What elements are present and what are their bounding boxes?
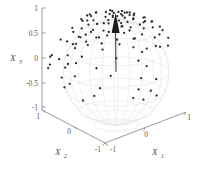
mean-direction-arrow: [112, 13, 120, 72]
scatter-point: [110, 75, 112, 77]
scatter-point: [121, 10, 123, 12]
scatter-point: [134, 37, 136, 39]
scatter-point: [132, 46, 134, 48]
scatter-point: [142, 21, 144, 23]
scatter-point: [161, 29, 163, 31]
axis-title-x3-sub: 3: [18, 59, 22, 65]
scatter-point: [137, 60, 139, 62]
scatter-point: [121, 14, 123, 16]
axis-title-x1-sub: 1: [161, 153, 164, 159]
scatter-point: [71, 27, 73, 29]
scatter-point: [95, 67, 97, 69]
axis-title-x1: X 1: [151, 147, 164, 159]
scatter-point: [121, 25, 123, 27]
scatter-point: [75, 62, 77, 64]
scatter-point: [167, 44, 169, 46]
scatter-point: [143, 27, 145, 29]
scatter-point: [69, 83, 71, 85]
tick-label-x3: 0: [34, 54, 38, 63]
scatter-point: [150, 90, 152, 92]
scatter-point: [106, 34, 108, 36]
scatter-point: [86, 14, 88, 16]
scatter-point: [61, 76, 63, 78]
axis-title-x2: X 2: [54, 147, 67, 159]
scatter-point: [150, 21, 152, 23]
scatter-point: [118, 19, 120, 21]
scatter-point: [81, 27, 83, 29]
axis-title-x3: X 3: [9, 53, 22, 65]
scatter-point: [58, 58, 60, 60]
scatter-point: [86, 19, 88, 21]
scatter-point: [67, 54, 69, 56]
scatter-point: [103, 22, 105, 24]
scatter-point: [75, 43, 77, 45]
scatter-point: [155, 78, 157, 80]
scatter-point: [128, 29, 130, 31]
scatter-point: [90, 31, 92, 33]
scatter-point: [87, 24, 89, 26]
scatter-point: [132, 97, 134, 99]
tick-label-x2: 1: [36, 112, 40, 121]
scatter-point: [133, 12, 135, 14]
scatter-point: [92, 19, 94, 21]
scatter-point: [113, 12, 115, 14]
scatter-point: [124, 11, 126, 13]
tick-label-x1: 1: [187, 113, 191, 122]
scatter-point: [74, 47, 76, 49]
scatter-point: [155, 94, 157, 96]
scatter-point: [117, 11, 119, 13]
scatter-point: [64, 66, 66, 68]
scatter-point: [154, 36, 156, 38]
axis-title-x2-name: X: [54, 147, 61, 157]
scatter-point: [105, 11, 107, 13]
scatter-point: [132, 18, 134, 20]
sphere-latitude: [86, 110, 146, 126]
scatter-point: [107, 22, 109, 24]
scatter-point: [152, 26, 154, 28]
scatter-point: [145, 65, 147, 67]
tick-x1: [103, 143, 106, 146]
axis-title-x1-name: X: [151, 147, 158, 157]
scatter-point: [47, 67, 49, 69]
tick-label-x1: 0: [144, 130, 148, 139]
scatter-points-group: [47, 9, 169, 102]
tick-label-x2: 0: [67, 127, 71, 136]
tick-label-x3: -1: [32, 103, 38, 112]
scatter-point: [146, 47, 148, 49]
tick-x2: [105, 143, 108, 146]
tick-label-x2: -1: [95, 145, 101, 154]
scatter-point: [81, 56, 83, 58]
scatter-point: [109, 9, 111, 11]
scatter-point: [96, 23, 98, 25]
tick-label-x1: -1: [110, 145, 116, 154]
scatter-point: [101, 48, 103, 50]
scatter-point: [120, 22, 122, 24]
scatter-point: [66, 40, 68, 42]
scatter-point: [85, 41, 87, 43]
scatter-point: [116, 15, 118, 17]
scatter-point: [101, 42, 103, 44]
scatter-point: [104, 16, 106, 18]
scatter-point: [49, 63, 51, 65]
scatter-point: [129, 26, 131, 28]
sphere-shading-lower: [71, 88, 161, 126]
tick-label-x3: -0.5: [26, 79, 38, 88]
tick-labels-x3: 1 0.5 0 -0.5 -1: [26, 4, 38, 112]
scatter-point: [123, 32, 125, 34]
scatter-point: [116, 39, 118, 41]
scatter-point: [60, 38, 62, 40]
scatter-point: [126, 11, 128, 13]
scatter-point: [92, 29, 94, 31]
scatter-point: [85, 34, 87, 36]
sphere-latitude: [71, 88, 161, 112]
scatter-point: [80, 18, 82, 20]
scatter-point: [93, 95, 95, 97]
scatter-point: [111, 10, 113, 12]
scatter-point: [78, 36, 80, 38]
scatter-point: [112, 16, 114, 18]
tick-labels-x2: 1 0 -1: [36, 112, 101, 154]
axis-title-x2-sub: 2: [64, 153, 67, 159]
scatter-point: [144, 16, 146, 18]
scatter-point: [142, 99, 144, 101]
scatter-point: [129, 11, 131, 13]
